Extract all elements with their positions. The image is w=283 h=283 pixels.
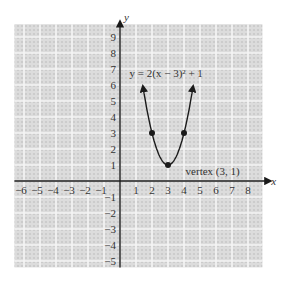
y-tick-label: 3 (111, 127, 117, 139)
y-tick-label: −4 (104, 239, 116, 251)
data-point (149, 130, 155, 136)
y-tick-label: 7 (111, 63, 117, 75)
x-tick-label: 4 (181, 184, 187, 196)
vertex-annotation: vertex (3, 1) (186, 165, 240, 178)
x-tick-label: −5 (31, 184, 43, 196)
equation-label: y = 2(x − 3)² + 1 (130, 67, 203, 80)
y-tick-label: 4 (111, 111, 117, 123)
y-tick-label: 8 (111, 47, 117, 59)
x-tick-label: −3 (63, 184, 75, 196)
y-tick-label: 1 (111, 159, 117, 171)
data-point (165, 162, 171, 168)
parabola-chart: −6−5−4−3−2−112345678987654321−1−2−3−4−5 … (0, 0, 283, 283)
y-axis-label: y (123, 11, 129, 23)
y-tick-label: 6 (111, 79, 117, 91)
y-tick-label: −2 (104, 207, 116, 219)
y-tick-label: −5 (104, 255, 116, 267)
x-tick-label: 6 (213, 184, 219, 196)
x-tick-label: 3 (165, 184, 171, 196)
y-tick-label: −1 (104, 191, 116, 203)
y-tick-label: −3 (104, 223, 116, 235)
y-tick-label: 9 (111, 31, 117, 43)
x-tick-label: −6 (15, 184, 27, 196)
x-axis-label: x (270, 175, 276, 187)
grid-background (14, 24, 262, 267)
y-tick-label: 2 (111, 143, 117, 155)
x-tick-label: 8 (245, 184, 251, 196)
x-tick-label: 7 (229, 184, 235, 196)
data-point (181, 130, 187, 136)
x-tick-label: −4 (47, 184, 59, 196)
x-tick-label: 5 (197, 184, 203, 196)
x-tick-label: 1 (133, 184, 139, 196)
x-tick-label: 2 (149, 184, 155, 196)
y-tick-label: 5 (111, 95, 117, 107)
x-tick-label: −2 (79, 184, 91, 196)
